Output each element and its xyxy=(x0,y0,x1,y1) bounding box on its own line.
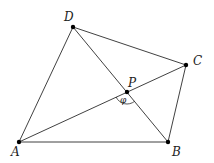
point-d xyxy=(71,25,75,29)
point-a xyxy=(17,140,21,144)
edge-cd xyxy=(73,27,186,65)
diagonal-ac xyxy=(19,65,186,142)
point-c xyxy=(184,63,188,67)
label-b: B xyxy=(171,145,181,159)
points xyxy=(17,25,188,144)
labels: A B C D P φ xyxy=(10,10,202,159)
point-b xyxy=(166,140,170,144)
diagonal-bd xyxy=(73,27,168,142)
label-c: C xyxy=(193,54,202,68)
angle-phi-symbol: φ xyxy=(120,95,127,105)
label-a: A xyxy=(10,145,20,159)
quadrilateral-diagram: A B C D P φ xyxy=(0,0,214,163)
edge-bc xyxy=(168,65,186,142)
label-p: P xyxy=(127,76,137,90)
point-p xyxy=(125,90,129,94)
edge-da xyxy=(19,27,73,142)
edges xyxy=(19,27,186,142)
label-d: D xyxy=(63,10,74,24)
